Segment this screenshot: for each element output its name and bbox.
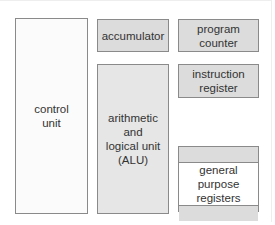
accumulator-label: accumulator (102, 29, 165, 43)
gpr-top-band (179, 147, 258, 163)
program-counter-block: program counter (178, 19, 259, 52)
accumulator-block: accumulator (97, 19, 169, 52)
general-purpose-registers-block: general purpose registers (178, 146, 259, 212)
alu-label: arithmetic and logical unit (ALU) (106, 111, 160, 167)
instruction-register-block: instruction register (178, 64, 259, 98)
control-unit-label: control unit (34, 102, 69, 130)
general-purpose-registers-label: general purpose registers (179, 163, 258, 205)
gpr-middle: general purpose registers (179, 163, 258, 205)
instruction-register-label: instruction register (192, 67, 244, 95)
alu-block: arithmetic and logical unit (ALU) (97, 64, 169, 214)
program-counter-label: program counter (197, 22, 240, 50)
control-unit-block: control unit (15, 18, 88, 214)
gpr-bottom-band (179, 205, 258, 221)
